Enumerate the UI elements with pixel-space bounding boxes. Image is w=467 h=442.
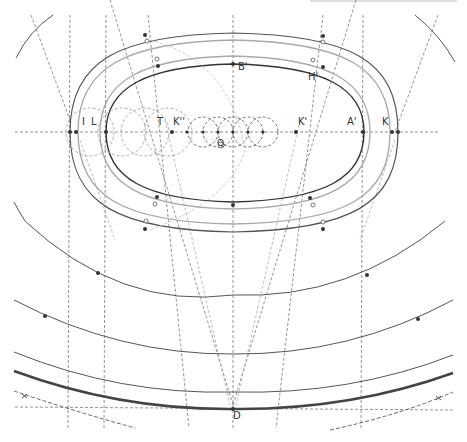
dashed-arc-left	[14, 391, 135, 428]
label-L: L	[91, 117, 97, 127]
diagram-canvas	[0, 0, 467, 442]
outer-arc-2	[14, 300, 453, 354]
label-Q: Q	[217, 139, 224, 148]
label-B-prime: B'	[238, 62, 248, 72]
outer-arc-3	[14, 352, 453, 392]
label-I: I	[82, 117, 85, 127]
label-A-prime: A'	[347, 117, 357, 127]
label-T: T	[157, 117, 163, 127]
vertical-guides	[68, 15, 363, 428]
label-K-prime: K'	[298, 117, 307, 127]
label-H-prime: H'	[308, 72, 318, 82]
dashed-arc-right	[330, 392, 453, 430]
converging-lines-light	[80, 120, 395, 405]
outer-arc-top-left	[16, 15, 53, 58]
label-K-double-prime: K''	[173, 117, 185, 127]
label-D: D	[233, 411, 241, 421]
label-K: K	[382, 117, 389, 127]
oval-inner-dark	[106, 64, 364, 202]
outer-arc-left-bottom	[14, 202, 25, 221]
